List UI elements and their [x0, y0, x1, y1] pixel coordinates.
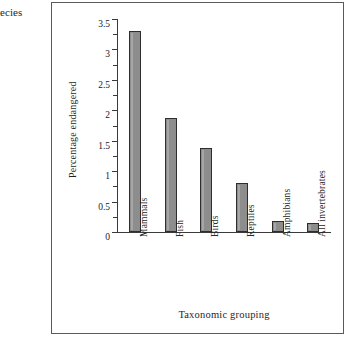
- y-tick-major: [112, 171, 117, 172]
- chart-plot-area: 00.511.522.533.5 MammalsFishBirdsReptile…: [0, 0, 350, 343]
- y-axis-title: Percentage endangered: [67, 81, 78, 178]
- bar-highlight: [309, 225, 311, 230]
- y-tick-major: [112, 19, 117, 20]
- y-tick-major: [112, 202, 117, 203]
- y-tick-major: [112, 80, 117, 81]
- x-tick-label-fish: Fish: [175, 220, 185, 237]
- y-tick-minor: [113, 126, 117, 127]
- y-tick-major: [112, 232, 117, 233]
- bar-highlight: [131, 33, 133, 230]
- x-axis-line: [117, 232, 331, 233]
- y-tick-major: [112, 49, 117, 50]
- bar-highlight: [274, 223, 276, 230]
- y-tick-label: 3.5: [82, 13, 110, 31]
- y-tick-label: 2.5: [82, 74, 110, 92]
- y-axis-line: [117, 19, 118, 233]
- x-tick-label-all-invertebrates: All invertebrates: [317, 170, 327, 237]
- x-tick-label-amphibians: Amphibians: [282, 189, 292, 237]
- x-tick-label-birds: Birds: [210, 215, 220, 237]
- y-tick-minor: [113, 217, 117, 218]
- y-tick-major: [112, 141, 117, 142]
- y-tick-label: 3: [82, 43, 110, 61]
- y-tick-label: 2: [82, 104, 110, 122]
- x-tick-label-reptiles: Reptiles: [246, 204, 256, 237]
- y-tick-label: 0: [82, 226, 110, 244]
- y-tick-major: [112, 110, 117, 111]
- y-tick-label: 1: [82, 165, 110, 183]
- bar-highlight: [167, 120, 169, 230]
- x-axis-title: Taxonomic grouping: [117, 309, 331, 320]
- y-tick-label: 0.5: [82, 196, 110, 214]
- x-tick-label-mammals: Mammals: [139, 198, 149, 237]
- y-tick-minor: [113, 65, 117, 66]
- y-tick-minor: [113, 34, 117, 35]
- y-tick-minor: [113, 95, 117, 96]
- y-tick-label: 1.5: [82, 135, 110, 153]
- bar-highlight: [202, 150, 204, 230]
- y-tick-minor: [113, 186, 117, 187]
- bar-fish: [165, 118, 177, 232]
- y-tick-minor: [113, 156, 117, 157]
- bar-highlight: [238, 185, 240, 230]
- figure-container: ecies 00.511.522.533.5 MammalsFishBirdsR…: [0, 0, 350, 343]
